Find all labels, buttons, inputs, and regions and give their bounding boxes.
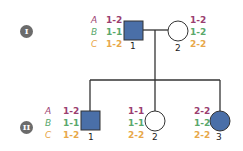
genotype-II2-C: 2-2 (128, 130, 144, 140)
genotype-I2-B: 1-2 (190, 27, 206, 37)
id-I2: 2 (175, 43, 181, 53)
generation-badge-II: II (20, 121, 33, 134)
individual-II-1-male-affected (81, 111, 100, 130)
locus-label-A: A (91, 15, 97, 25)
generation-badge-I: I (20, 25, 33, 38)
genotype-I2-C: 2-2 (190, 39, 206, 49)
id-II3: 3 (216, 132, 222, 142)
individual-II-2-female (145, 111, 165, 131)
locus-label-C-II: C (45, 130, 51, 140)
id-II1: 1 (88, 132, 94, 142)
genotype-II2-A: 1-1 (128, 106, 144, 116)
individual-II-3-female-affected (210, 111, 230, 131)
id-I1: 1 (130, 41, 136, 51)
genotype-I1-A: 1-2 (106, 15, 122, 25)
genotype-II1-A: 1-2 (63, 106, 79, 116)
genotype-I1-C: 1-2 (106, 39, 122, 49)
genotype-I1-B: 1-1 (106, 27, 122, 37)
genotype-II1-B: 1-1 (63, 118, 79, 128)
individual-I-2-female (168, 21, 188, 41)
locus-label-A-II: A (45, 106, 51, 116)
id-II2: 2 (152, 132, 158, 142)
locus-label-B: B (91, 27, 97, 37)
locus-label-C: C (91, 39, 97, 49)
genotype-II3-B: 1-2 (194, 118, 210, 128)
genotype-II1-C: 1-2 (63, 130, 79, 140)
genotype-II3-A: 2-2 (194, 106, 210, 116)
genotype-I2-A: 1-2 (190, 15, 206, 25)
genotype-II2-B: 1-1 (128, 118, 144, 128)
locus-label-B-II: B (45, 118, 51, 128)
individual-I-1-male-affected (124, 21, 143, 40)
genotype-II3-C: 2-2 (194, 130, 210, 140)
